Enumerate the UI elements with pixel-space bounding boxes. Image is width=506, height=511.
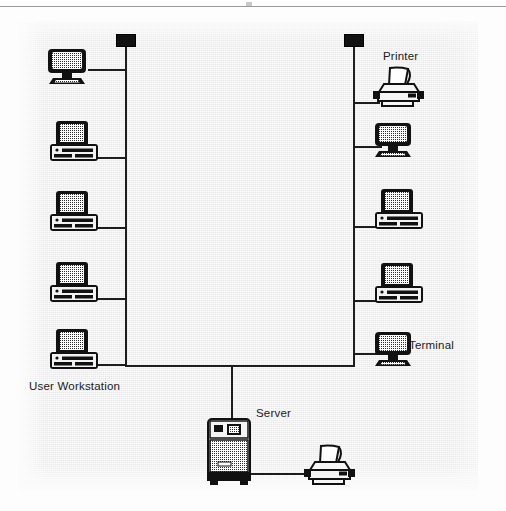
node-workstation[interactable]: [375, 188, 425, 232]
left-bus-terminator-icon: [116, 34, 136, 47]
label-user-workstation: User Workstation: [29, 380, 120, 392]
node-terminal[interactable]: [375, 330, 419, 374]
node-printer[interactable]: [372, 66, 424, 110]
label-printer: Printer: [383, 50, 418, 62]
server-drop-line: [231, 365, 233, 420]
node-crt-monitor[interactable]: [48, 45, 92, 89]
node-workstation[interactable]: [50, 261, 100, 305]
node-server-printer[interactable]: [303, 444, 355, 488]
node-workstation[interactable]: [50, 120, 100, 164]
label-terminal: Terminal: [409, 339, 454, 351]
node-user-workstation[interactable]: [50, 328, 100, 372]
diagram-page: User Workstation Printer: [0, 0, 506, 511]
stub-left-1: [88, 69, 127, 71]
node-server-tower[interactable]: [206, 415, 258, 487]
network-diagram: User Workstation Printer: [0, 0, 506, 511]
node-workstation[interactable]: [50, 190, 100, 234]
node-crt-monitor[interactable]: [375, 121, 419, 165]
trunk-line: [125, 365, 355, 367]
right-bus-line: [353, 47, 355, 367]
right-bus-terminator-icon: [344, 34, 364, 47]
label-server: Server: [256, 407, 291, 419]
node-workstation[interactable]: [375, 262, 425, 306]
left-bus-line: [125, 47, 127, 367]
